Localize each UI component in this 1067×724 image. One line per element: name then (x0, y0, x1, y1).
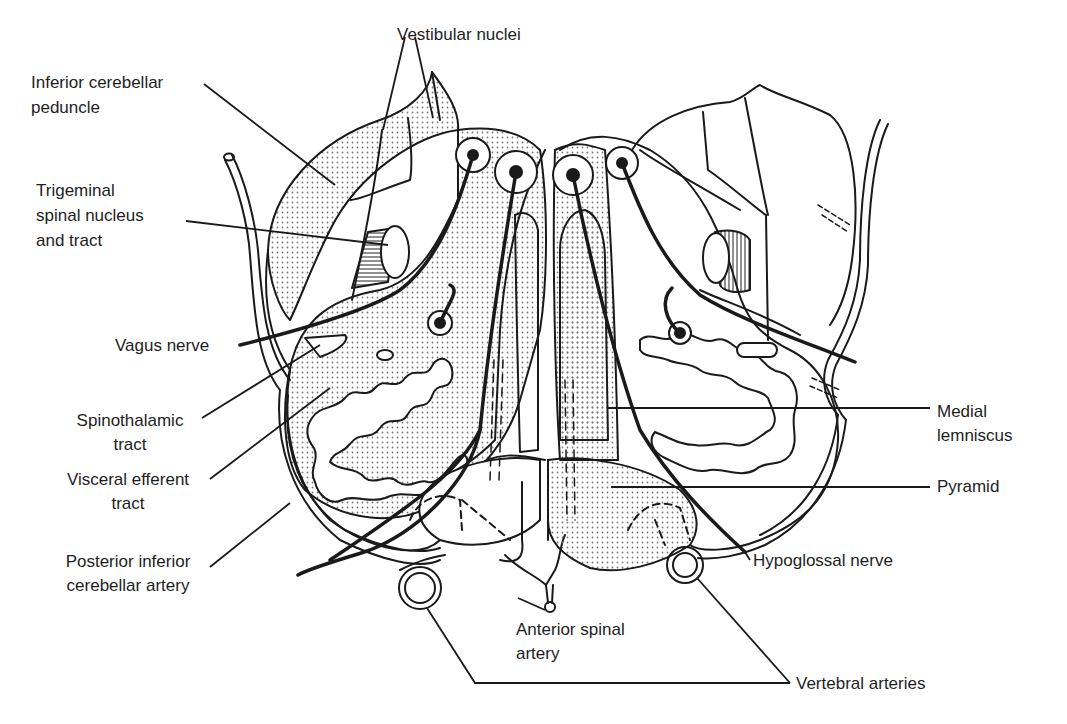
label-visceral-efferent-line2: tract (48, 493, 208, 515)
label-trigeminal-line3: and tract (36, 230, 102, 252)
label-pyramid: Pyramid (937, 476, 999, 498)
label-visceral-efferent-line1: Visceral efferent (48, 469, 208, 491)
label-spinothalamic-line1: Spinothalamic (55, 410, 205, 432)
label-medial-lemniscus-line2: lemniscus (937, 425, 1013, 447)
label-vertebral-arteries: Vertebral arteries (796, 673, 925, 695)
label-inferior-cerebellar-peduncle-line1: Inferior cerebellar (31, 72, 163, 94)
label-hypoglossal-nerve: Hypoglossal nerve (753, 550, 893, 572)
label-pica-line2: cerebellar artery (48, 575, 208, 597)
label-anterior-spinal-line2: artery (516, 643, 559, 665)
label-spinothalamic-line2: tract (55, 434, 205, 456)
label-medial-lemniscus-line1: Medial (937, 401, 987, 423)
label-trigeminal-line1: Trigeminal (36, 180, 115, 202)
left-trigeminal-nucleus (381, 226, 409, 278)
right-pyramid (548, 459, 697, 571)
label-pica-line1: Posterior inferior (48, 551, 208, 573)
label-vagus-nerve: Vagus nerve (115, 335, 209, 357)
label-trigeminal-line2: spinal nucleus (36, 205, 144, 227)
label-anterior-spinal-line1: Anterior spinal (516, 619, 625, 641)
label-vestibular-nuclei: Vestibular nuclei (397, 24, 521, 46)
medulla-diagram (0, 0, 1067, 724)
label-inferior-cerebellar-peduncle-line2: peduncle (31, 97, 100, 119)
